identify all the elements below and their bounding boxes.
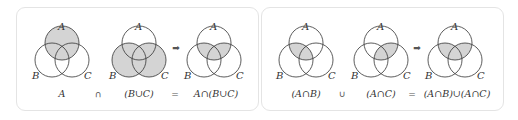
- caption: (A∩B)∪(A∩C): [424, 88, 491, 99]
- caption: A∩(B∪C): [193, 88, 239, 99]
- label-c: C: [328, 70, 336, 81]
- label-a: A: [209, 21, 217, 32]
- union-operator: ∪: [339, 89, 346, 99]
- intersect-operator: ∩: [95, 89, 102, 99]
- label-a: A: [301, 21, 309, 32]
- venn-diagram-a-intersect-b-union-c: A B C A∩(B∪C): [183, 21, 244, 99]
- arrow-right-icon: ➡: [413, 43, 421, 53]
- label-a: A: [450, 21, 458, 32]
- equals-operator: =: [171, 89, 179, 99]
- venn-diagram-a-intersect-b-union-a-intersect-c: A B C (A∩B)∪(A∩C): [424, 21, 491, 99]
- caption: (B∪C): [124, 88, 154, 99]
- venn-diagram-a-intersect-c: A B C (A∩C): [350, 21, 411, 99]
- label-c: C: [84, 70, 92, 81]
- venn-diagram-a: A B C A: [31, 21, 92, 99]
- label-b: B: [424, 70, 432, 81]
- venn-diagrams: A B C A ∩ A B C (B∪C) = ➡ A B C A∩(B∪C): [0, 0, 518, 120]
- venn-diagram-b-union-c: A B C (B∪C): [108, 21, 169, 99]
- caption: (A∩C): [366, 88, 396, 99]
- caption: A: [58, 88, 66, 99]
- label-c: C: [236, 70, 244, 81]
- label-b: B: [275, 70, 283, 81]
- label-b: B: [108, 70, 116, 81]
- label-b: B: [31, 70, 39, 81]
- label-c: C: [403, 70, 411, 81]
- caption: (A∩B): [291, 88, 321, 99]
- label-a: A: [57, 21, 65, 32]
- label-a: A: [376, 21, 384, 32]
- label-b: B: [183, 70, 191, 81]
- arrow-right-icon: ➡: [172, 43, 180, 53]
- label-b: B: [350, 70, 358, 81]
- equals-operator: =: [408, 89, 416, 99]
- label-a: A: [134, 21, 142, 32]
- label-c: C: [161, 70, 169, 81]
- label-c: C: [477, 70, 485, 81]
- venn-diagram-a-intersect-b: A B C (A∩B): [275, 21, 336, 99]
